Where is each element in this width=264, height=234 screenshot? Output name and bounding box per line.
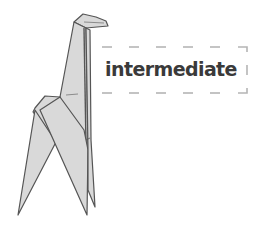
origami-giraffe-illustration bbox=[0, 0, 264, 234]
difficulty-label-box: intermediate bbox=[100, 43, 250, 95]
giraffe-icon bbox=[18, 14, 108, 215]
difficulty-label: intermediate bbox=[100, 58, 242, 80]
